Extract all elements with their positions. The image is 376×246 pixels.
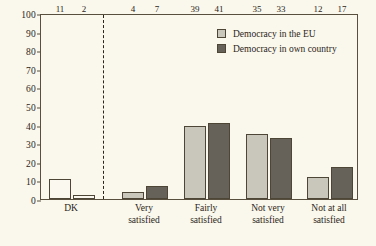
legend-label: Democracy in the EU <box>233 29 316 39</box>
legend-label: Democracy in own country <box>233 44 337 54</box>
bar-group: 112 <box>48 15 96 199</box>
y-axis-tick-label: 90 <box>26 29 36 39</box>
y-axis-tick-mark <box>37 108 41 109</box>
y-axis-tick-label: 30 <box>26 140 36 150</box>
y-axis-tick-mark <box>37 163 41 164</box>
y-axis-tick-mark <box>37 52 41 53</box>
x-axis-label: Fairlysatisfied <box>190 203 222 226</box>
x-axis-label-line: Not very <box>251 203 285 215</box>
bar: 2 <box>73 195 95 199</box>
bar-column: 4 <box>122 15 144 199</box>
bar: 7 <box>146 186 168 199</box>
x-axis-label-line: Very <box>128 203 160 215</box>
bar: 17 <box>331 167 353 199</box>
bar: 39 <box>184 126 206 199</box>
x-axis-label: DK <box>64 203 78 215</box>
y-axis-tick-label: 40 <box>26 122 36 132</box>
bar: 41 <box>208 123 230 199</box>
bar-value-label: 33 <box>277 4 286 14</box>
y-axis-tick-label: 10 <box>26 177 36 187</box>
x-axis-label-line: satisfied <box>311 215 346 227</box>
y-axis-tick-label: 0 <box>31 196 36 206</box>
y-axis-tick-mark <box>37 70 41 71</box>
bar-value-label: 41 <box>215 4 224 14</box>
x-axis-label: Not verysatisfied <box>251 203 285 226</box>
bar-group: 47 <box>121 15 169 199</box>
x-axis-label: Not at allsatisfied <box>311 203 346 226</box>
bar-value-label: 12 <box>314 4 323 14</box>
legend-entry: Democracy in the EU <box>217 27 337 40</box>
bar: 35 <box>246 134 268 199</box>
bar-value-label: 35 <box>253 4 262 14</box>
bar-value-label: 7 <box>155 4 160 14</box>
x-axis-label-line: Fairly <box>190 203 222 215</box>
x-axis-label-line: satisfied <box>128 215 160 227</box>
bar-value-label: 2 <box>82 4 87 14</box>
bar-column: 39 <box>184 15 206 199</box>
bar: 12 <box>307 177 329 199</box>
y-axis-tick-mark <box>37 182 41 183</box>
bar-value-label: 39 <box>191 4 200 14</box>
chart-legend: Democracy in the EUDemocracy in own coun… <box>217 27 337 57</box>
legend-color-swatch <box>217 29 226 38</box>
x-axis-label: Verysatisfied <box>128 203 160 226</box>
legend-color-swatch <box>217 44 226 53</box>
y-axis-tick-label: 70 <box>26 66 36 76</box>
dashed-separator-line <box>103 15 104 199</box>
y-axis-tick-mark <box>37 33 41 34</box>
x-axis-label-line: DK <box>64 203 78 215</box>
bar: 4 <box>122 192 144 199</box>
x-axis-label-line: satisfied <box>190 215 222 227</box>
y-axis-tick-label: 50 <box>26 103 36 113</box>
x-axis-labels: DKVerysatisfiedFairlysatisfiedNot verysa… <box>40 203 358 243</box>
bar: 11 <box>49 179 71 199</box>
bar-column: 11 <box>49 15 71 199</box>
bar-value-label: 17 <box>338 4 347 14</box>
y-axis-tick-mark <box>37 201 41 202</box>
x-axis-label-line: Not at all <box>311 203 346 215</box>
x-axis-label-line: satisfied <box>251 215 285 227</box>
bar: 33 <box>270 138 292 199</box>
bar-value-label: 4 <box>131 4 136 14</box>
y-axis-tick-mark <box>37 126 41 127</box>
y-axis-tick-mark <box>37 89 41 90</box>
legend-entry: Democracy in own country <box>217 42 337 55</box>
bar-column: 7 <box>146 15 168 199</box>
y-axis-tick-mark <box>37 15 41 16</box>
bar-value-label: 11 <box>56 4 65 14</box>
bar-chart: 11247394135331217 0102030405060708090100… <box>0 0 376 246</box>
y-axis-tick-label: 60 <box>26 84 36 94</box>
y-axis-tick-label: 80 <box>26 47 36 57</box>
y-axis-tick-label: 20 <box>26 159 36 169</box>
bar-column: 2 <box>73 15 95 199</box>
y-axis-tick-mark <box>37 145 41 146</box>
y-axis-tick-label: 100 <box>21 10 36 20</box>
